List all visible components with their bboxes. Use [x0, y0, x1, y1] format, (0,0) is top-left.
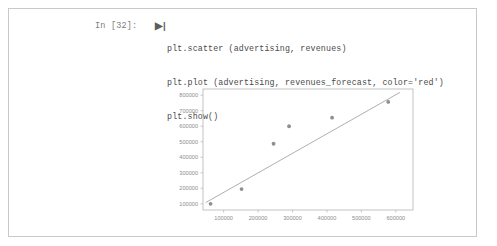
- scatter-point: [287, 124, 291, 128]
- x-tick-label: 500000: [352, 215, 371, 221]
- y-axis-ticks: 1000002000003000004000005000006000007000…: [179, 92, 203, 207]
- y-tick-label: 300000: [179, 170, 198, 176]
- y-tick-label: 500000: [179, 139, 198, 145]
- scatter-plot: 1000002000003000004000005000006000007000…: [149, 81, 434, 233]
- scatter-point: [240, 187, 244, 191]
- x-tick-label: 400000: [318, 215, 337, 221]
- run-cell-icon[interactable]: ▶|: [155, 20, 166, 31]
- x-tick-label: 100000: [214, 215, 233, 221]
- notebook-cell[interactable]: In [32]: ▶| plt.scatter (advertising, re…: [8, 8, 477, 237]
- forecast-line: [206, 92, 400, 202]
- y-tick-label: 400000: [179, 154, 198, 160]
- x-tick-label: 200000: [249, 215, 268, 221]
- code-line: plt.scatter (advertising, revenues): [167, 43, 467, 54]
- chart-output: 1000002000003000004000005000006000007000…: [149, 81, 434, 233]
- scatter-point: [209, 202, 213, 206]
- y-tick-label: 100000: [179, 201, 198, 207]
- y-tick-label: 800000: [179, 92, 198, 98]
- forecast-line-group: [206, 92, 400, 202]
- plot-frame: [203, 89, 413, 210]
- y-tick-label: 600000: [179, 123, 198, 129]
- cell-prompt-label: In [32]:: [95, 21, 157, 31]
- scatter-point: [330, 116, 334, 120]
- x-axis-ticks: 100000200000300000400000500000600000: [214, 210, 405, 221]
- x-tick-label: 600000: [386, 215, 405, 221]
- y-tick-label: 700000: [179, 108, 198, 114]
- x-tick-label: 300000: [283, 215, 302, 221]
- scatter-point: [272, 142, 276, 146]
- y-tick-label: 200000: [179, 185, 198, 191]
- scatter-points-group: [209, 100, 390, 206]
- scatter-point: [386, 100, 390, 104]
